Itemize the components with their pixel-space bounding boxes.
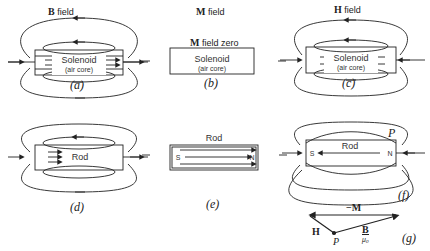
vector-minus-m-label: −M <box>346 202 361 213</box>
panel-d-label: Rod <box>70 152 90 162</box>
panel-c-caption: (c) <box>342 76 355 91</box>
panel-b-note: M field zero <box>190 37 239 48</box>
panel-e-pole-s: S <box>174 153 182 163</box>
panel-f-pole-s: S <box>308 149 316 159</box>
panel-a-label: Solenoid (air core) <box>52 55 106 75</box>
vector-h-label: H <box>312 226 320 237</box>
panel-a-caption: (a) <box>70 78 84 93</box>
panel-b-label: Solenoid (air core) <box>170 54 254 74</box>
panel-f-caption: (f) <box>398 188 409 203</box>
panel-g-caption: (g) <box>402 231 416 246</box>
panel-g-vectors <box>310 215 396 235</box>
panel-f-pole-n: N <box>386 149 394 159</box>
h-field-header: H field <box>334 4 361 15</box>
panel-e-caption: (e) <box>206 197 219 212</box>
b-field-header: B field <box>48 6 74 17</box>
vector-b-over-mu0-label: B μ₀ <box>362 225 369 244</box>
panel-c-label: Solenoid (air core) <box>324 53 378 73</box>
panel-g-point-p: P <box>333 236 339 247</box>
panel-e-lines <box>142 145 287 170</box>
panel-d-caption: (d) <box>70 200 84 215</box>
panel-e-pole-n: N <box>248 153 256 163</box>
panel-b-caption: (b) <box>204 76 218 91</box>
panel-f-point-p: P <box>388 126 395 141</box>
panel-f-label: Rod <box>336 141 364 151</box>
m-field-header: M field <box>196 6 224 17</box>
panel-e-label: Rod <box>200 133 228 143</box>
